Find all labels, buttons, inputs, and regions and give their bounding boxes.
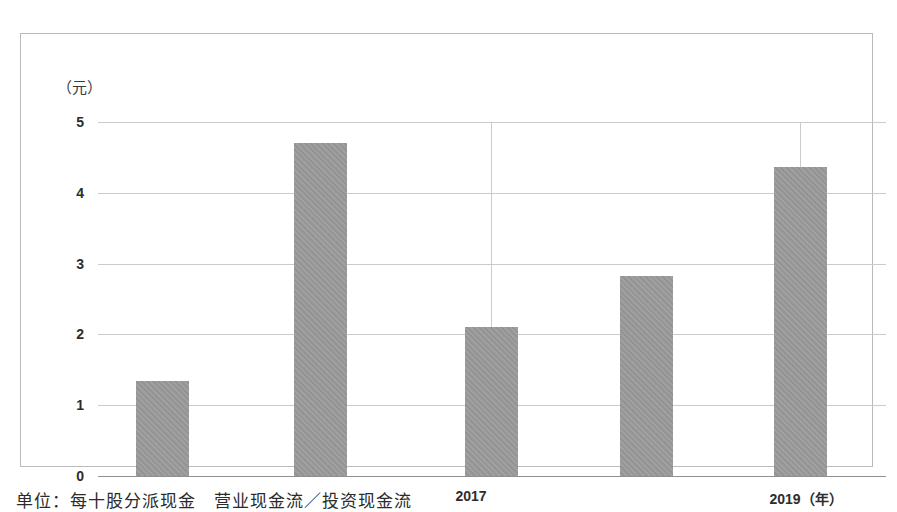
y-axis-tick-label: 1 <box>76 397 84 413</box>
bar-5 <box>774 167 827 476</box>
y-axis-unit-label: （元） <box>57 76 102 97</box>
gridline-y-3: 3 <box>98 264 886 265</box>
vertical-gridline <box>800 122 801 167</box>
gridline-y-4: 4 <box>98 193 886 194</box>
y-axis-tick-label: 2 <box>76 326 84 342</box>
figure-caption: 单位：每十股分派现金 营业现金流／投资现金流 <box>16 487 412 512</box>
y-axis-tick-label: 3 <box>76 256 84 272</box>
figure-frame: （元） 012345 20172019（年） <box>20 33 873 467</box>
y-axis-tick-label: 4 <box>76 185 84 201</box>
x-axis-tick-label: 2017 <box>455 488 486 504</box>
bar-4 <box>620 276 673 476</box>
y-axis-tick-label: 0 <box>76 468 84 484</box>
chart-plot-area: 012345 <box>98 122 886 476</box>
x-axis-tick-label: 2019（年） <box>769 488 842 508</box>
bar-3 <box>465 327 518 476</box>
y-axis-tick-label: 5 <box>76 114 84 130</box>
gridline-y-0: 0 <box>98 476 886 477</box>
bar-2 <box>294 143 347 476</box>
vertical-gridline <box>491 122 492 327</box>
gridline-y-5: 5 <box>98 122 886 123</box>
bar-1 <box>136 381 189 476</box>
